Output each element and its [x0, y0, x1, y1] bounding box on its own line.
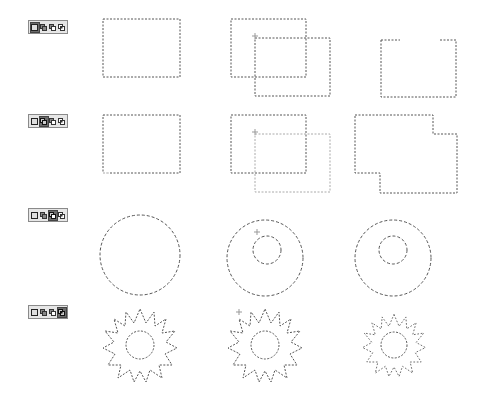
selection-diagrams	[0, 0, 482, 401]
crosshair-cursor	[252, 33, 258, 39]
selection-rect-original	[103, 19, 180, 77]
selection-union-result	[355, 115, 457, 193]
selection-rect-result	[381, 40, 456, 97]
selection-rect-first	[231, 19, 306, 77]
selection-rect-second	[255, 38, 330, 96]
